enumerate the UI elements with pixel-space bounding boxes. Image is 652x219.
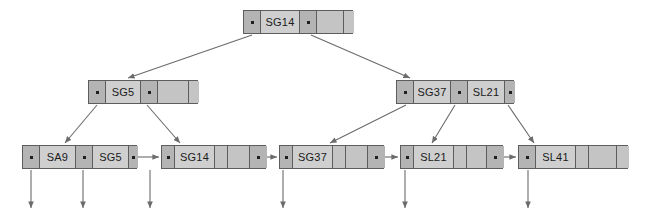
tree-edge-internal-right-to-leaf-3 xyxy=(330,105,406,143)
tree-edge-internal-right-to-leaf-5 xyxy=(508,105,534,143)
leaf-4-empty-cell-3 xyxy=(467,146,487,168)
pointer-dot xyxy=(494,156,497,159)
internal-left-empty-cell-3 xyxy=(158,81,189,103)
leaf-5-key-cell-1: SL41 xyxy=(536,146,576,168)
leaf-1-key-cell-1: SA9 xyxy=(40,146,76,168)
pointer-dot xyxy=(285,156,288,159)
leaf-3-empty-cell-2 xyxy=(333,146,346,168)
internal-left-key-cell-1: SG5 xyxy=(106,81,141,103)
leaf-1-pointer-cell-4 xyxy=(129,146,138,168)
pointer-dot xyxy=(96,91,99,94)
leaf-1-pointer-cell-2 xyxy=(76,146,93,168)
key-label: SG37 xyxy=(418,86,447,98)
leaf-5-empty-cell-2 xyxy=(576,146,589,168)
key-label: SG5 xyxy=(112,86,135,98)
tree-edge-root-to-internal-left xyxy=(128,35,252,78)
btree-node-root-node: SG14 xyxy=(243,10,353,34)
btree-diagram: SG14SG5SG37SL21SA9SG5SG14SG37SL21SL41 xyxy=(0,0,652,219)
root-node-key-cell-1: SG14 xyxy=(261,11,300,33)
key-label: SL21 xyxy=(420,151,447,163)
internal-right-key-cell-1: SG37 xyxy=(414,81,451,103)
tree-edge-internal-left-to-leaf-1 xyxy=(65,105,97,143)
pointer-dot xyxy=(307,21,310,24)
leaf-4-empty-cell-2 xyxy=(454,146,467,168)
root-node-pointer-cell-0 xyxy=(244,11,261,33)
leaf-2-empty-cell-2 xyxy=(215,146,228,168)
tree-edge-root-to-internal-right xyxy=(311,35,410,78)
pointer-dot xyxy=(458,91,461,94)
pointer-dot xyxy=(83,156,86,159)
pointer-dot xyxy=(257,156,260,159)
pointer-dot xyxy=(375,156,378,159)
key-label: SL41 xyxy=(542,151,569,163)
key-label: SA9 xyxy=(47,151,68,163)
internal-left-pointer-cell-0 xyxy=(89,81,106,103)
pointer-dot xyxy=(148,91,151,94)
leaf-2-pointer-cell-4 xyxy=(250,146,267,168)
key-label: SG5 xyxy=(99,151,122,163)
tree-edge-internal-right-to-leaf-4 xyxy=(432,105,455,143)
btree-node-leaf-5: SL41 xyxy=(518,145,628,169)
leaf-1-pointer-cell-0 xyxy=(23,146,40,168)
leaf-5-pointer-cell-0 xyxy=(519,146,536,168)
key-label: SG37 xyxy=(298,151,327,163)
leaf-3-pointer-cell-0 xyxy=(280,146,293,168)
leaf-4-pointer-cell-0 xyxy=(401,146,414,168)
tree-edge-internal-left-to-leaf-2 xyxy=(147,105,180,143)
pointer-dot xyxy=(30,156,33,159)
key-label: SG14 xyxy=(266,16,295,28)
leaf-2-pointer-cell-0 xyxy=(162,146,175,168)
pointer-dot xyxy=(251,21,254,24)
btree-node-internal-right: SG37SL21 xyxy=(396,80,514,104)
pointer-dot xyxy=(406,156,409,159)
internal-right-pointer-cell-2 xyxy=(451,81,468,103)
btree-node-leaf-4: SL21 xyxy=(400,145,503,169)
btree-node-leaf-2: SG14 xyxy=(161,145,266,169)
internal-right-key-cell-3: SL21 xyxy=(468,81,505,103)
btree-node-internal-left: SG5 xyxy=(88,80,198,104)
pointer-dot xyxy=(509,91,512,94)
leaf-5-empty-cell-4 xyxy=(617,146,629,168)
leaf-4-key-cell-1: SL21 xyxy=(414,146,454,168)
leaf-3-key-cell-1: SG37 xyxy=(293,146,333,168)
root-node-empty-cell-4 xyxy=(344,11,354,33)
record-pointer-arrows xyxy=(31,170,528,208)
pointer-dot xyxy=(167,156,170,159)
leaf-2-key-cell-1: SG14 xyxy=(175,146,215,168)
internal-right-pointer-cell-0 xyxy=(397,81,414,103)
internal-left-pointer-cell-2 xyxy=(141,81,158,103)
key-label: SG14 xyxy=(180,151,209,163)
btree-node-leaf-1: SA9SG5 xyxy=(22,145,137,169)
internal-left-empty-cell-4 xyxy=(189,81,199,103)
pointer-dot xyxy=(404,91,407,94)
key-label: SL21 xyxy=(473,86,500,98)
leaf-5-empty-cell-3 xyxy=(589,146,617,168)
root-node-pointer-cell-2 xyxy=(300,11,317,33)
btree-node-leaf-3: SG37 xyxy=(279,145,384,169)
leaf-3-pointer-cell-4 xyxy=(368,146,385,168)
leaf-4-pointer-cell-4 xyxy=(487,146,504,168)
pointer-dot xyxy=(526,156,529,159)
pointer-dot xyxy=(132,156,135,159)
leaf-3-empty-cell-3 xyxy=(346,146,368,168)
leaf-1-key-cell-3: SG5 xyxy=(93,146,129,168)
root-node-empty-cell-3 xyxy=(317,11,344,33)
leaf-2-empty-cell-3 xyxy=(228,146,250,168)
internal-right-pointer-cell-4 xyxy=(505,81,515,103)
